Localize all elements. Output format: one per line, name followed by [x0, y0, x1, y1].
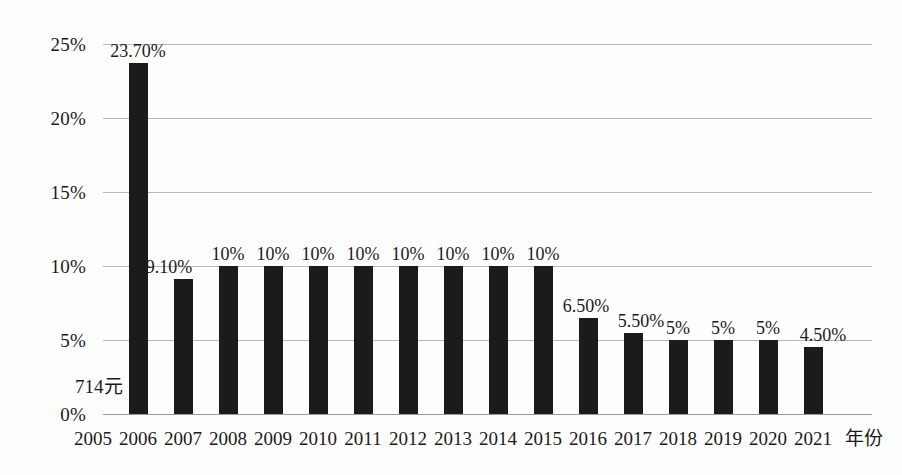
gridline-15: [103, 192, 872, 193]
x-tick-label-2005: 2005: [74, 428, 112, 450]
bar-label-2015: 10%: [527, 245, 560, 263]
x-tick-label-2019: 2019: [704, 428, 742, 450]
bar-2010[interactable]: [309, 266, 328, 414]
bar-2006[interactable]: [129, 63, 148, 414]
y-tick-label-10: 10%: [51, 257, 86, 276]
y-tick-label-20: 20%: [51, 109, 86, 128]
x-tick-label-2008: 2008: [209, 428, 247, 450]
bar-2020[interactable]: [759, 340, 778, 414]
x-tick-label-2016: 2016: [569, 428, 607, 450]
bar-2012[interactable]: [399, 266, 418, 414]
bar-label-2013: 10%: [437, 245, 470, 263]
bar-label-2012: 10%: [392, 245, 425, 263]
y-axis-labels: 25% 20% 15% 10% 5% 0%: [0, 0, 96, 475]
bar-2017[interactable]: [624, 333, 643, 414]
bar-2007[interactable]: [174, 279, 193, 414]
x-tick-label-2021: 2021: [794, 428, 832, 450]
bar-label-2020: 5%: [756, 319, 780, 337]
annotation-714-yuan: 714元: [75, 377, 123, 396]
bar-2021[interactable]: [804, 347, 823, 414]
y-tick-label-15: 15%: [51, 183, 86, 202]
x-tick-label-2009: 2009: [254, 428, 292, 450]
x-tick-label-2014: 2014: [479, 428, 517, 450]
bar-2011[interactable]: [354, 266, 373, 414]
bar-label-2006: 23.70%: [110, 42, 166, 60]
x-tick-label-2015: 2015: [524, 428, 562, 450]
bar-2019[interactable]: [714, 340, 733, 414]
x-tick-label-2010: 2010: [299, 428, 337, 450]
bar-label-2011: 10%: [347, 245, 380, 263]
x-axis-title: 年份: [845, 428, 883, 450]
x-tick-label-2012: 2012: [389, 428, 427, 450]
x-tick-label-2011: 2011: [344, 428, 381, 450]
bar-2016[interactable]: [579, 318, 598, 414]
bar-label-2008: 10%: [212, 245, 245, 263]
bar-label-2018: 5%: [666, 319, 690, 337]
x-tick-label-2007: 2007: [164, 428, 202, 450]
gridline-0-baseline: [103, 414, 872, 415]
bar-label-2014: 10%: [482, 245, 515, 263]
y-tick-label-25: 25%: [51, 35, 86, 54]
gridline-20: [103, 118, 872, 119]
x-axis-labels: 2005200620072008200920102011201220132014…: [0, 428, 902, 458]
x-tick-label-2020: 2020: [749, 428, 787, 450]
bar-2014[interactable]: [489, 266, 508, 414]
x-tick-label-2006: 2006: [119, 428, 157, 450]
bar-label-2017: 5.50%: [618, 312, 665, 330]
bar-label-2010: 10%: [302, 245, 335, 263]
y-tick-label-0: 0%: [60, 405, 86, 424]
gridline-25: [103, 44, 872, 45]
bar-2018[interactable]: [669, 340, 688, 414]
bar-label-2009: 10%: [257, 245, 290, 263]
bar-2008[interactable]: [219, 266, 238, 414]
bar-label-2021: 4.50%: [800, 326, 847, 344]
bar-chart: 25% 20% 15% 10% 5% 0% 23.70%9.10%10%10%1…: [0, 0, 902, 475]
bar-label-2007: 9.10%: [146, 258, 193, 276]
bar-2015[interactable]: [534, 266, 553, 414]
plot-area: 23.70%9.10%10%10%10%10%10%10%10%10%6.50%…: [103, 44, 872, 414]
y-tick-label-5: 5%: [60, 331, 86, 350]
x-tick-label-2017: 2017: [614, 428, 652, 450]
x-tick-label-2013: 2013: [434, 428, 472, 450]
bar-2013[interactable]: [444, 266, 463, 414]
bar-label-2019: 5%: [711, 319, 735, 337]
bar-label-2016: 6.50%: [563, 297, 610, 315]
x-tick-label-2018: 2018: [659, 428, 697, 450]
bar-2009[interactable]: [264, 266, 283, 414]
